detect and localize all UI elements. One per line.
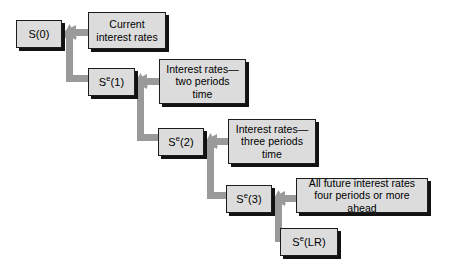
node-all-future-interest-rates-label: All future interest ratesfour periods or… bbox=[301, 177, 423, 214]
node-rates-two-periods[interactable]: Interest rates—two periodstime bbox=[159, 59, 246, 104]
node-s0[interactable]: S(0) bbox=[16, 20, 62, 48]
node-s0-label: S(0) bbox=[17, 28, 61, 41]
node-rates-two-periods-label: Interest rates—two periodstime bbox=[164, 63, 241, 100]
node-selr[interactable]: Se(LR) bbox=[280, 228, 338, 256]
node-se3[interactable]: Se(3) bbox=[226, 185, 272, 213]
node-rates-three-periods[interactable]: Interest rates—three periodstime bbox=[228, 119, 316, 164]
node-current-interest-rates[interactable]: Currentinterest rates bbox=[88, 12, 166, 49]
node-se2-label: Se(2) bbox=[159, 136, 203, 149]
node-rates-three-periods-label: Interest rates—three periodstime bbox=[233, 123, 311, 160]
interest-rate-expectations-diagram: S(0) Currentinterest rates Se(1) Interes… bbox=[0, 0, 459, 266]
node-selr-label: Se(LR) bbox=[281, 236, 337, 249]
node-se1[interactable]: Se(1) bbox=[88, 68, 135, 96]
node-se1-label: Se(1) bbox=[89, 76, 134, 89]
node-current-interest-rates-label: Currentinterest rates bbox=[93, 18, 161, 43]
node-all-future-interest-rates[interactable]: All future interest ratesfour periods or… bbox=[296, 178, 428, 213]
node-se2[interactable]: Se(2) bbox=[158, 128, 204, 156]
node-se3-label: Se(3) bbox=[227, 193, 271, 206]
